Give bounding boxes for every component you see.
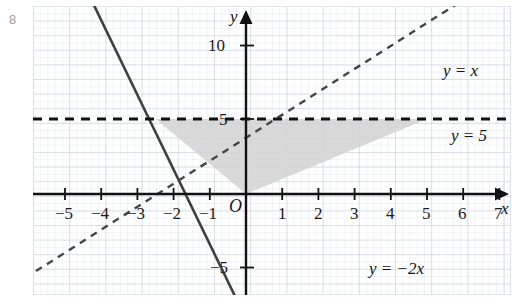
x-tick-label--4: −4 <box>91 205 109 222</box>
y-tick-label-5: 5 <box>219 111 228 128</box>
x-tick-label--2: −2 <box>163 205 181 222</box>
y-axis-label: y <box>230 8 238 25</box>
x-tick-label-3: 3 <box>350 205 359 222</box>
question-number: 8 <box>9 13 16 26</box>
label-y-equals-minus-2x: y = −2x <box>369 260 424 277</box>
coordinate-plot: −5 −4 −3 −2 −1 1 2 3 4 5 6 7 10 5 −5 O y… <box>33 6 511 295</box>
label-y-equals-x: y = x <box>443 62 478 79</box>
x-tick-label-2: 2 <box>314 205 323 222</box>
label-y-equals-5: y = 5 <box>451 127 487 144</box>
x-tick-label-6: 6 <box>458 205 467 222</box>
x-tick-label--1: −1 <box>199 205 217 222</box>
figure-page: 8 <box>0 0 518 306</box>
y-tick-label--5: −5 <box>210 259 228 276</box>
y-tick-label-10: 10 <box>208 37 225 54</box>
x-tick-label--5: −5 <box>55 205 73 222</box>
x-tick-label-4: 4 <box>386 205 395 222</box>
x-tick-label--3: −3 <box>127 205 145 222</box>
x-tick-label-5: 5 <box>422 205 431 222</box>
plot-canvas <box>33 6 511 295</box>
x-axis-label: x <box>501 200 509 217</box>
x-tick-label-1: 1 <box>278 205 287 222</box>
origin-label: O <box>229 197 242 215</box>
